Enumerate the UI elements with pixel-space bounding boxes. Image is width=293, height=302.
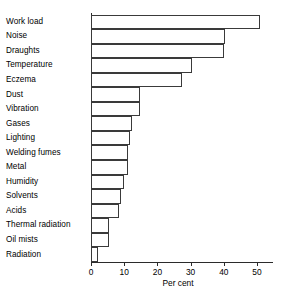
- bar-chart-figure: Work loadNoiseDraughtsTemperatureEczemaD…: [0, 0, 293, 302]
- category-label: Solvents: [6, 191, 88, 200]
- x-tick-label: 50: [246, 267, 268, 277]
- category-label: Dust: [6, 90, 88, 99]
- bar: [91, 44, 224, 59]
- bar: [91, 175, 124, 190]
- bar: [91, 102, 140, 117]
- category-label: Draughts: [6, 46, 88, 55]
- x-axis-title: Per cent: [133, 278, 223, 288]
- x-tick-label: 20: [146, 267, 168, 277]
- x-tick-label: 10: [113, 267, 135, 277]
- category-label: Humidity: [6, 177, 88, 186]
- bar: [91, 218, 109, 233]
- bar: [91, 58, 192, 73]
- category-label: Vibration: [6, 104, 88, 113]
- category-label: Oil mists: [6, 235, 88, 244]
- x-axis: Per cent 01020304050: [91, 262, 276, 302]
- bar: [91, 204, 119, 219]
- bar: [91, 145, 128, 160]
- category-label: Acids: [6, 206, 88, 215]
- category-label: Metal: [6, 162, 88, 171]
- bar: [91, 87, 140, 102]
- x-axis-line: [91, 262, 273, 263]
- x-tick-mark: [191, 262, 192, 266]
- category-label: Lighting: [6, 133, 88, 142]
- bar: [91, 15, 260, 30]
- plot-area: [91, 13, 273, 262]
- x-tick-mark: [91, 262, 92, 266]
- category-label: Welding fumes: [6, 148, 88, 157]
- category-label: Thermal radiation: [6, 220, 88, 229]
- bar: [91, 247, 98, 262]
- bar: [91, 160, 128, 175]
- category-label: Radiation: [6, 250, 88, 259]
- bar: [91, 233, 109, 248]
- category-label: Noise: [6, 31, 88, 40]
- x-tick-label: 30: [180, 267, 202, 277]
- x-tick-label: 0: [80, 267, 102, 277]
- bar: [91, 189, 121, 204]
- x-tick-mark: [224, 262, 225, 266]
- bar: [91, 131, 130, 146]
- x-tick-mark: [157, 262, 158, 266]
- bar: [91, 29, 225, 44]
- category-label: Eczema: [6, 75, 88, 84]
- bar: [91, 116, 132, 131]
- bar: [91, 73, 182, 88]
- x-tick-mark: [124, 262, 125, 266]
- category-label: Gases: [6, 119, 88, 128]
- x-tick-label: 40: [213, 267, 235, 277]
- category-axis: Work loadNoiseDraughtsTemperatureEczemaD…: [0, 13, 88, 262]
- x-tick-mark: [257, 262, 258, 266]
- category-label: Work load: [6, 17, 88, 26]
- category-label: Temperature: [6, 60, 88, 69]
